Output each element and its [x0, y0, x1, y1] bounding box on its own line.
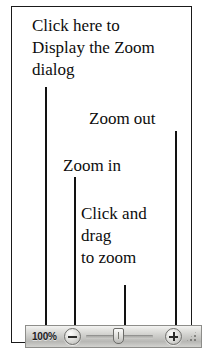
- leader-line-click-and-drag: [124, 285, 126, 326]
- zoom-slider-track[interactable]: [86, 335, 153, 339]
- callout-zoom-out: Zoom out: [89, 108, 156, 130]
- plus-icon-vertical: [173, 332, 175, 341]
- leader-line-zoom-out: [175, 131, 177, 326]
- zoom-in-button[interactable]: [165, 328, 182, 345]
- callout-click-and-drag: Click and drag to zoom: [81, 203, 147, 269]
- figure-page: Click here to Display the Zoom dialog Zo…: [0, 0, 202, 351]
- zoom-slider-handle[interactable]: [113, 328, 124, 344]
- minus-icon: [68, 336, 77, 338]
- leader-line-zoom-dialog: [45, 87, 47, 325]
- zoom-out-button[interactable]: [64, 328, 81, 345]
- callout-zoom-in: Zoom in: [63, 155, 121, 177]
- zoom-status-bar: 100%: [25, 325, 202, 348]
- callout-zoom-dialog: Click here to Display the Zoom dialog: [32, 15, 155, 81]
- resize-grip-icon[interactable]: [185, 330, 198, 343]
- leader-line-zoom-in: [74, 177, 76, 325]
- zoom-level-button[interactable]: 100%: [32, 331, 57, 342]
- figure-frame: Click here to Display the Zoom dialog Zo…: [11, 6, 192, 343]
